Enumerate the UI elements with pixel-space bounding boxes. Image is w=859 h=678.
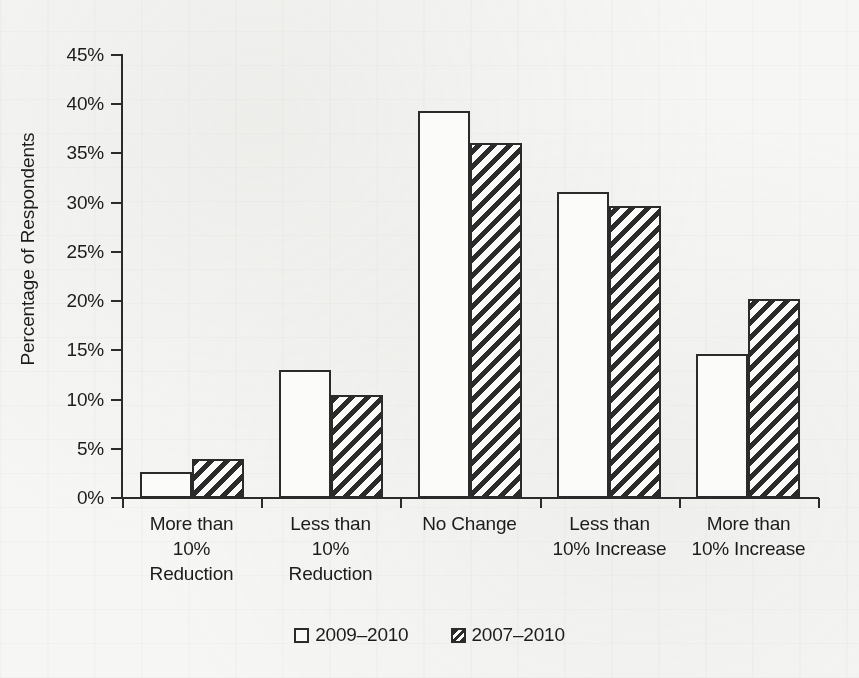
category-label-line: 10% Increase	[679, 536, 818, 561]
x-axis-tick-mark	[540, 498, 542, 508]
legend-swatch-icon	[451, 628, 466, 643]
y-axis-tick-label: 20%	[34, 291, 104, 310]
category-label-line: Reduction	[261, 561, 400, 586]
chart-page: Percentage of Respondents 45%40%35%30%25…	[0, 0, 859, 678]
x-axis-category-label: Less than10% Increase	[540, 511, 679, 561]
category-label-line: Less than	[261, 511, 400, 536]
y-axis-tick-label-text: 25%	[38, 242, 104, 261]
x-axis-tick-mark	[400, 498, 402, 508]
y-axis-tick-label: 25%	[34, 242, 104, 261]
y-axis-tick-label: 15%	[34, 340, 104, 359]
y-axis-tick-label-text: 10%	[38, 390, 104, 409]
y-axis-tick-label: 0%	[34, 488, 104, 507]
x-axis-category-label: More than10% Increase	[679, 511, 818, 561]
category-label-line: Less than	[540, 511, 679, 536]
legend-swatch-icon	[294, 628, 309, 643]
y-axis-tick-label-text: 0%	[38, 488, 104, 507]
x-axis-tick-mark	[122, 498, 124, 508]
x-axis-category-label: Less than10%Reduction	[261, 511, 400, 586]
x-axis-tick-mark	[818, 498, 820, 508]
bar-group	[122, 52, 818, 498]
category-label-line: More than	[122, 511, 261, 536]
y-axis-tick-label-text: 35%	[38, 143, 104, 162]
x-axis-tick-mark	[679, 498, 681, 508]
bar-2007-2010-4	[748, 299, 800, 498]
y-axis-tick-label-text: 20%	[38, 291, 104, 310]
y-axis-tick-label-text: 15%	[38, 340, 104, 359]
y-axis-tick-label-text: 5%	[38, 439, 104, 458]
y-axis-tick-label-text: 30%	[38, 193, 104, 212]
category-label-line: 10% Increase	[540, 536, 679, 561]
x-axis-category-label: No Change	[400, 511, 539, 536]
bar-2009-2010-4	[696, 354, 748, 498]
y-axis-tick-label-text: 45%	[38, 45, 104, 64]
y-axis-tick-label-text: 40%	[38, 94, 104, 113]
legend-label: 2009–2010	[315, 624, 408, 646]
category-label-line: 10%	[122, 536, 261, 561]
legend-entry: 2007–2010	[451, 624, 565, 646]
legend-entry: 2009–2010	[294, 624, 408, 646]
category-label-line: No Change	[400, 511, 539, 536]
category-label-line: Reduction	[122, 561, 261, 586]
y-axis-tick-label: 35%	[34, 143, 104, 162]
y-axis-tick-label: 5%	[34, 439, 104, 458]
category-label-line: More than	[679, 511, 818, 536]
y-axis-tick-label: 40%	[34, 94, 104, 113]
y-axis-tick-label: 45%	[34, 45, 104, 64]
x-axis-category-label: More than10%Reduction	[122, 511, 261, 586]
y-axis-tick-label: 10%	[34, 390, 104, 409]
category-label-line: 10%	[261, 536, 400, 561]
plot-area	[122, 52, 818, 498]
chart-legend: 2009–20102007–2010	[0, 624, 859, 646]
x-axis-tick-mark	[261, 498, 263, 508]
y-axis-tick-label: 30%	[34, 193, 104, 212]
legend-label: 2007–2010	[472, 624, 565, 646]
